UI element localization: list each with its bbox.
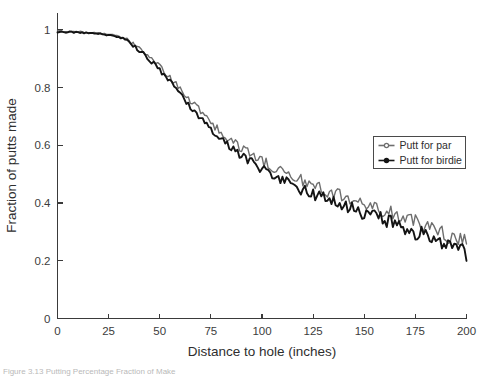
y-tick-label: 0 <box>44 313 50 325</box>
x-tick-label: 200 <box>457 325 476 337</box>
x-tick-label: 0 <box>54 325 60 337</box>
x-tick-label: 100 <box>252 325 271 337</box>
x-tick-label: 150 <box>355 325 374 337</box>
x-tick-label: 125 <box>304 325 323 337</box>
y-tick-label: 0.4 <box>35 197 52 209</box>
open-circle-marker <box>384 143 388 147</box>
x-tick-label: 50 <box>153 325 166 337</box>
y-tick-label: 0.2 <box>35 255 51 267</box>
x-tick-label: 175 <box>406 325 425 337</box>
x-tick-label: 25 <box>102 325 115 337</box>
figure-caption-fragment: Figure 3.13 Putting Percentage Fraction … <box>3 367 303 376</box>
putting-percentage-chart: 025507510012515017520000.20.40.60.81Dist… <box>0 0 491 376</box>
figure-container: 025507510012515017520000.20.40.60.81Dist… <box>0 0 491 376</box>
filled-circle-marker <box>384 158 388 162</box>
y-tick-label: 1 <box>44 24 50 36</box>
y-tick-label: 0.6 <box>35 139 51 151</box>
legend-label-0: Putt for par <box>400 139 452 151</box>
x-axis-title: Distance to hole (inches) <box>188 344 337 359</box>
y-axis-title: Fraction of putts made <box>4 98 19 232</box>
x-tick-label: 75 <box>204 325 217 337</box>
legend-label-1: Putt for birdie <box>400 154 463 166</box>
y-tick-label: 0.8 <box>35 82 51 94</box>
